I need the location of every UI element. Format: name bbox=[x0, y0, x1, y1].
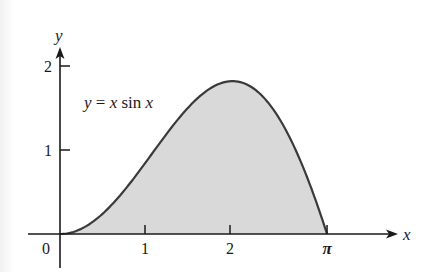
x-tick-label: π bbox=[322, 239, 332, 258]
y-tick-label: 1 bbox=[44, 142, 52, 159]
chart-area: 12π 12 x y 0 y = x sin x bbox=[0, 0, 436, 272]
x-axis-label: x bbox=[402, 225, 411, 244]
x-tick-label: 2 bbox=[226, 240, 234, 257]
y-axis-label: y bbox=[53, 26, 63, 45]
y-tick-label: 2 bbox=[44, 58, 52, 75]
y-ticks: 12 bbox=[44, 58, 70, 159]
function-label: y = x sin x bbox=[82, 93, 154, 112]
x-tick-label: 1 bbox=[141, 240, 149, 257]
origin-label: 0 bbox=[42, 240, 50, 257]
